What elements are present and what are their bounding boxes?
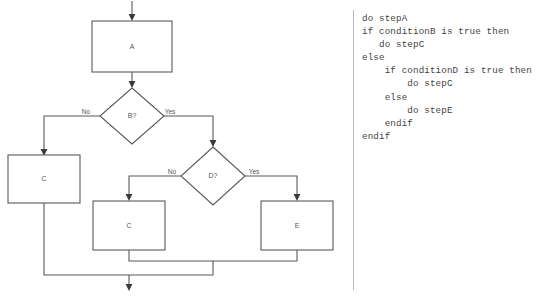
flowchart-panel: A B? C D? C E No Yes No Yes <box>0 0 354 301</box>
pseudocode-block: do stepA if conditionB is true then do s… <box>362 12 532 143</box>
node-c-bottom[interactable]: C <box>93 201 165 250</box>
node-d-decision[interactable]: D? <box>181 147 245 205</box>
arrowhead-d-yes <box>294 194 301 201</box>
panel-divider <box>353 10 354 290</box>
connector-d-yes-to-e <box>245 176 297 195</box>
connector-b-no-to-c-left <box>44 116 100 150</box>
connector-b-yes-to-d <box>164 116 213 141</box>
node-a-label: A <box>130 43 135 50</box>
flowchart-diagram: A B? C D? C E No Yes No Yes <box>0 0 354 301</box>
node-c-left-label: C <box>41 175 46 182</box>
node-c-left[interactable]: C <box>8 155 80 203</box>
edge-label-d-yes: Yes <box>249 168 260 175</box>
edge-label-b-yes: Yes <box>165 108 176 115</box>
node-d-label: D? <box>209 172 218 179</box>
arrowhead-entry <box>129 14 136 21</box>
node-a[interactable]: A <box>92 21 172 72</box>
node-b-label: B? <box>128 112 137 119</box>
pseudocode-panel: do stepA if conditionB is true then do s… <box>362 12 532 143</box>
arrowhead-exit <box>126 284 133 291</box>
edge-label-d-no: No <box>168 168 177 175</box>
arrowhead-a-to-b <box>129 81 136 88</box>
arrowhead-b-yes <box>210 140 217 147</box>
node-c-bottom-label: C <box>126 222 131 229</box>
edge-label-b-no: No <box>82 108 91 115</box>
arrowhead-d-no <box>126 194 133 201</box>
connector-c-bottom-merge <box>129 250 297 261</box>
node-e[interactable]: E <box>261 201 333 250</box>
node-b-decision[interactable]: B? <box>100 88 164 144</box>
connector-d-no-to-c-bottom <box>129 176 181 195</box>
node-e-label: E <box>295 222 300 229</box>
